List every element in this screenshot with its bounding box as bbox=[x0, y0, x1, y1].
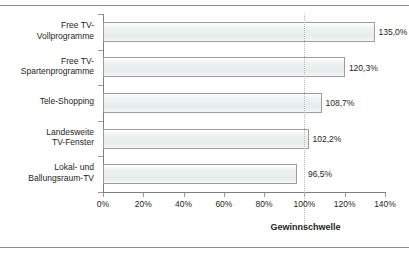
x-axis-tick bbox=[345, 193, 346, 197]
x-axis-tick bbox=[264, 193, 265, 197]
x-axis-tick-label: 80% bbox=[244, 199, 284, 209]
y-axis-tick bbox=[98, 85, 103, 86]
x-axis-tick-label: 120% bbox=[325, 199, 365, 209]
bar-value-label: 135,0% bbox=[379, 27, 408, 37]
bar-lokal-und-ballungsraum-tv bbox=[103, 164, 297, 184]
bar-tele-shopping bbox=[103, 93, 322, 113]
x-axis-tick bbox=[143, 193, 144, 197]
x-axis-tick-label: 0% bbox=[83, 199, 123, 209]
y-axis-tick bbox=[98, 14, 103, 15]
y-axis-tick bbox=[98, 50, 103, 51]
x-axis-tick-label: 40% bbox=[164, 199, 204, 209]
x-axis-tick bbox=[224, 193, 225, 197]
bar-landesweite-tv-fenster bbox=[103, 129, 309, 149]
category-label: Landesweite TV-Fenster bbox=[0, 127, 94, 148]
x-axis-tick-label: 60% bbox=[204, 199, 244, 209]
category-label: Tele-Shopping bbox=[0, 96, 94, 107]
bar-free-tv-spartenprogramme bbox=[103, 57, 345, 77]
bar-value-label: 102,2% bbox=[313, 134, 342, 144]
y-axis-tick bbox=[98, 156, 103, 157]
chart-figure: Free TV- Vollprogramme Free TV- Spartenp… bbox=[0, 0, 409, 254]
breakeven-annotation-label: Gewinnschwelle bbox=[0, 222, 409, 232]
category-label: Lokal- und Ballungsraum-TV bbox=[0, 162, 94, 183]
x-axis-tick bbox=[103, 193, 104, 197]
x-axis-tick-label: 140% bbox=[365, 199, 405, 209]
x-axis-tick-label: 20% bbox=[123, 199, 163, 209]
x-axis-tick-label: 100% bbox=[284, 199, 324, 209]
breakeven-reference-line bbox=[304, 14, 306, 229]
category-label: Free TV- Vollprogramme bbox=[0, 20, 94, 41]
bar-value-label: 120,3% bbox=[349, 63, 378, 73]
bar-free-tv-vollprogramme bbox=[103, 22, 375, 42]
x-axis-tick bbox=[385, 193, 386, 197]
bar-value-label: 96,5% bbox=[308, 169, 332, 179]
y-axis-tick bbox=[98, 121, 103, 122]
x-axis-tick bbox=[184, 193, 185, 197]
breakeven-annotation-text: Gewinnschwelle bbox=[270, 222, 340, 232]
bar-chart: Free TV- Vollprogramme Free TV- Spartenp… bbox=[0, 0, 409, 254]
x-axis-line bbox=[103, 192, 386, 193]
category-label: Free TV- Spartenprogramme bbox=[0, 56, 94, 77]
bar-value-label: 108,7% bbox=[326, 98, 355, 108]
